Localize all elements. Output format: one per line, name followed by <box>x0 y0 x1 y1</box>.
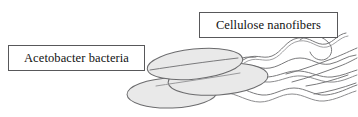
fiber-loop-near-box-corner <box>300 35 332 60</box>
label-acetobacter-bacteria-text: Acetobacter bacteria <box>24 52 129 65</box>
label-cellulose-nanofibers: Cellulose nanofibers <box>199 12 338 38</box>
diagram-figure: Cellulose nanofibers Acetobacter bacteri… <box>0 0 358 117</box>
label-cellulose-nanofibers-text: Cellulose nanofibers <box>216 19 321 32</box>
label-acetobacter-bacteria: Acetobacter bacteria <box>8 45 145 71</box>
fiber-connector-to-cells <box>242 57 256 58</box>
fiber-short-tail-b <box>314 83 356 94</box>
fiber-diagonal-bundle-upper <box>286 48 357 74</box>
